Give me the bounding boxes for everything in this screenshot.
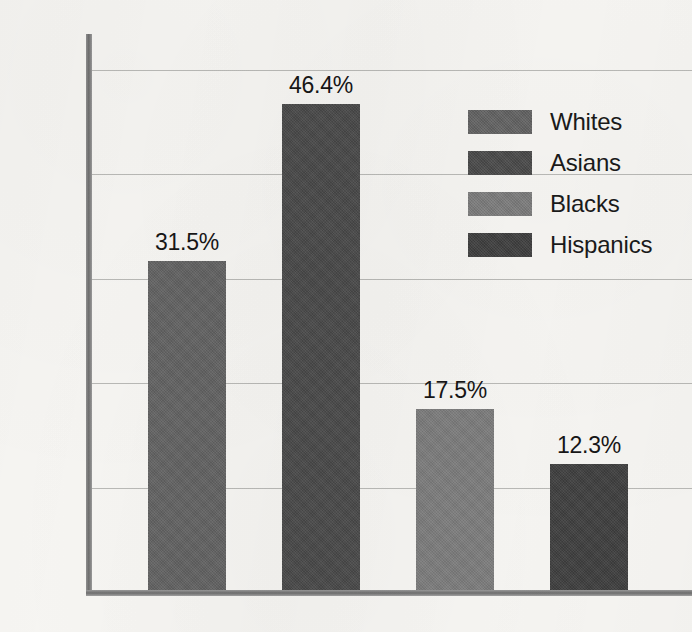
legend-swatch-hispanics bbox=[468, 233, 532, 257]
chart-legend: Whites Asians Blacks Hispanics bbox=[468, 101, 652, 265]
legend-item-blacks[interactable]: Blacks bbox=[468, 183, 652, 224]
legend-swatch-blacks bbox=[468, 192, 532, 216]
bar-hispanics[interactable] bbox=[550, 464, 628, 594]
x-axis-line bbox=[86, 590, 692, 596]
legend-label-whites: Whites bbox=[550, 108, 622, 136]
legend-swatch-whites bbox=[468, 110, 532, 134]
legend-label-hispanics: Hispanics bbox=[550, 231, 652, 259]
y-axis-line bbox=[86, 34, 92, 596]
legend-label-asians: Asians bbox=[550, 149, 621, 177]
bar-whites[interactable] bbox=[148, 261, 226, 594]
bar-fill-asians bbox=[282, 104, 360, 594]
bar-fill-blacks bbox=[416, 409, 494, 594]
legend-item-asians[interactable]: Asians bbox=[468, 142, 652, 183]
bar-value-label-asians: 46.4% bbox=[267, 72, 375, 99]
bar-blacks[interactable] bbox=[416, 409, 494, 594]
bar-asians[interactable] bbox=[282, 104, 360, 594]
legend-label-blacks: Blacks bbox=[550, 190, 620, 218]
bar-value-label-hispanics: 12.3% bbox=[535, 432, 643, 459]
bar-fill-hispanics bbox=[550, 464, 628, 594]
bar-fill-whites bbox=[148, 261, 226, 594]
legend-item-whites[interactable]: Whites bbox=[468, 101, 652, 142]
bar-value-label-whites: 31.5% bbox=[133, 229, 241, 256]
gridline-50 bbox=[92, 70, 692, 71]
legend-item-hispanics[interactable]: Hispanics bbox=[468, 224, 652, 265]
bar-chart: 31.5% 46.4% 17.5% 12.3% 50% 40% 30% 20% … bbox=[0, 0, 692, 632]
bar-value-label-blacks: 17.5% bbox=[401, 377, 509, 404]
legend-swatch-asians bbox=[468, 151, 532, 175]
